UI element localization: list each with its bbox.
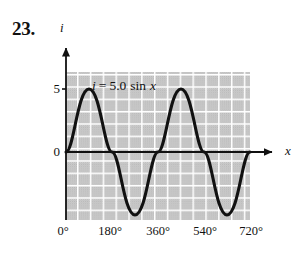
x-tick-label-0: 0° <box>40 224 86 239</box>
equation-annotation: i=5.0sinx <box>92 78 156 94</box>
problem-number: 23. <box>12 18 35 40</box>
x-tick-label-360: 360° <box>135 224 181 239</box>
equation-function: sin <box>130 78 146 93</box>
x-tick-label-720: 720° <box>228 224 274 239</box>
equation-equals: = <box>99 78 107 93</box>
y-tick-label-0: 0 <box>46 144 60 160</box>
x-tick-label-540: 540° <box>182 224 228 239</box>
y-axis-label: i <box>60 20 64 36</box>
equation-lhs: i <box>92 78 96 93</box>
figure-canvas <box>0 0 307 253</box>
y-tick-label-5: 5 <box>46 81 60 97</box>
equation-variable: x <box>150 78 156 93</box>
x-axis-label: x <box>285 143 291 159</box>
equation-amplitude: 5.0 <box>109 78 126 93</box>
x-tick-label-180: 180° <box>87 224 133 239</box>
